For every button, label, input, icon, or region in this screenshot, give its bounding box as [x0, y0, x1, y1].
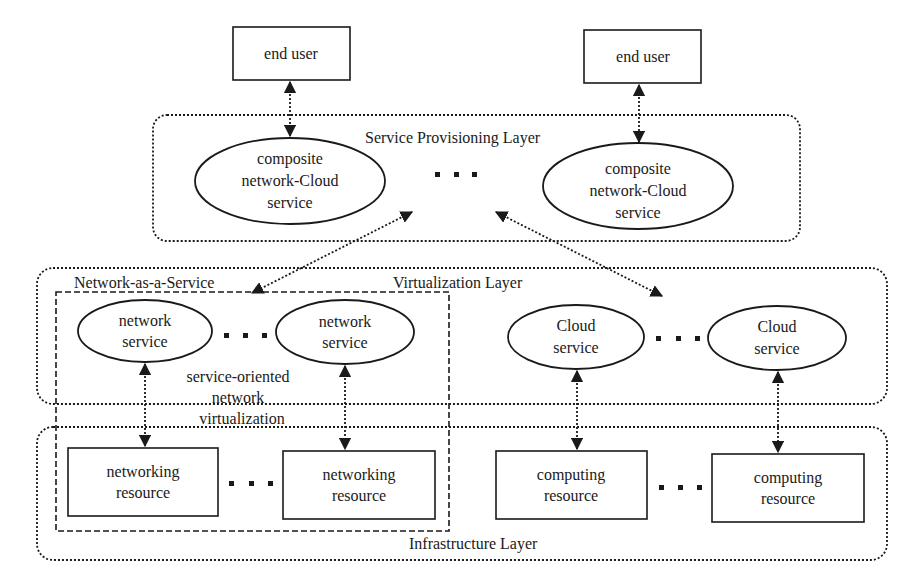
composite-right-line3: service [615, 203, 660, 223]
composite-right-line2: network-Cloud [590, 181, 687, 201]
network-service-right-line1: network [319, 312, 371, 332]
computing-resource-left-line1: computing [537, 465, 605, 485]
cloud-service-left-line2: service [553, 338, 598, 358]
composite-left-line1: composite [257, 149, 323, 169]
networking-resource-right-line2: resource [332, 486, 386, 506]
network-service-right-line2: service [322, 333, 367, 353]
naas-label: Network-as-a-Service [74, 273, 214, 293]
end-user-label-left: end user [264, 44, 318, 64]
networking-resource-left-line2: resource [116, 483, 170, 503]
cloud-service-right [708, 306, 846, 370]
networking-resource-left [68, 448, 218, 516]
composite-left-line2: network-Cloud [242, 171, 339, 191]
computing-resource-right-line1: computing [754, 468, 822, 488]
networking-resource-right [283, 451, 435, 519]
infrastructure-layer-label: Infrastructure Layer [409, 534, 537, 554]
service-provisioning-layer-label: Service Provisioning Layer [365, 128, 540, 148]
computing-resource-right [712, 454, 864, 522]
network-service-left-line1: network [119, 311, 171, 331]
network-service-right [276, 300, 414, 364]
network-service-left [78, 300, 212, 362]
computing-resource-left-line2: resource [544, 486, 598, 506]
computing-resource-right-line2: resource [761, 489, 815, 509]
cloud-service-right-line1: Cloud [757, 317, 796, 337]
cloud-service-left-line1: Cloud [556, 316, 595, 336]
composite-left-line3: service [267, 193, 312, 213]
naas-description-line2: network [212, 388, 264, 408]
naas-description-line1: service-oriented [186, 367, 289, 387]
computing-resource-left [496, 451, 647, 519]
networking-resource-right-line1: networking [323, 465, 396, 485]
composite-right-line1: composite [605, 159, 671, 179]
network-service-left-line2: service [122, 332, 167, 352]
end-user-label-right: end user [616, 47, 670, 67]
cloud-service-left [508, 305, 644, 369]
cloud-service-right-line2: service [754, 339, 799, 359]
naas-description-line3: virtualization [199, 409, 284, 429]
networking-resource-left-line1: networking [107, 462, 180, 482]
virtualization-layer-label: Virtualization Layer [393, 273, 522, 293]
